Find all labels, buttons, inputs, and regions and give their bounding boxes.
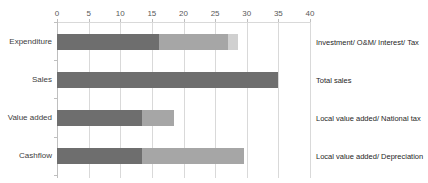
bar-expenditure: [57, 34, 238, 50]
bar-segment: [159, 34, 228, 50]
y-tick-mark: [54, 98, 57, 99]
bar-segment: [228, 34, 237, 50]
annotation-label: Local value added/ Depreciation: [316, 152, 423, 161]
bar-segment: [142, 148, 244, 164]
bar-segment: [57, 72, 278, 88]
bar-segment: [57, 148, 142, 164]
x-tick-label: 0: [55, 9, 59, 18]
stacked-bar-chart: 0510152025303540 ExpenditureSalesValue a…: [0, 0, 428, 183]
gridline: [278, 22, 279, 178]
x-tick-mark: [57, 19, 58, 22]
x-tick-label: 5: [86, 9, 90, 18]
gridline: [310, 22, 311, 178]
x-tick-label: 30: [242, 9, 251, 18]
y-tick-mark: [54, 60, 57, 61]
bar-cashflow: [57, 148, 244, 164]
category-label: Expenditure: [9, 37, 52, 46]
bar-segment: [57, 34, 159, 50]
annotation-label: Local value added/ National tax: [316, 114, 421, 123]
x-tick-label: 10: [116, 9, 125, 18]
category-label: Sales: [32, 75, 52, 84]
y-tick-mark: [54, 22, 57, 23]
gridline: [247, 22, 248, 178]
bar-value-added: [57, 110, 174, 126]
x-tick-label: 25: [211, 9, 220, 18]
x-tick-label: 40: [306, 9, 315, 18]
category-label: Value added: [8, 113, 52, 122]
bar-segment: [142, 110, 174, 126]
annotation-label: Total sales: [316, 76, 351, 85]
y-tick-mark: [54, 175, 57, 176]
bar-sales: [57, 72, 278, 88]
bar-segment: [57, 110, 142, 126]
category-label: Cashflow: [19, 151, 52, 160]
x-tick-label: 20: [179, 9, 188, 18]
x-tick-label: 15: [147, 9, 156, 18]
x-tick-label: 35: [274, 9, 283, 18]
y-tick-mark: [54, 137, 57, 138]
annotation-label: Investment/ O&M/ Interest/ Tax: [316, 38, 419, 47]
